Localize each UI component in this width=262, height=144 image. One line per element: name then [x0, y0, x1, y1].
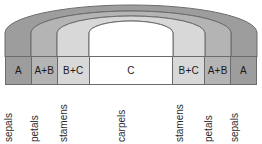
organ-label-slot: petals	[31, 86, 57, 144]
organ-label-slot: stamens	[57, 86, 89, 144]
organ-label-slot: sepals	[231, 86, 257, 144]
organ-label-slot: sepals	[5, 86, 31, 144]
flower-abc-model-diagram: A A+B B+C C B+C A+B A sepals petals stam…	[0, 0, 262, 144]
organ-label: sepals	[229, 113, 240, 142]
gene-cell: C	[90, 57, 174, 84]
gene-cell: B+C	[173, 57, 205, 84]
organ-label-slot: petals	[205, 86, 231, 144]
organ-label-slot: carpels	[89, 86, 173, 144]
organ-label: petals	[29, 115, 40, 142]
gene-cell: A+B	[205, 57, 231, 84]
organ-label: stamens	[174, 104, 185, 142]
organ-label: stamens	[58, 104, 69, 142]
organ-label-slot: stamens	[173, 86, 205, 144]
organ-label: petals	[203, 115, 214, 142]
carpels-arch-band	[89, 21, 173, 57]
organ-label: sepals	[3, 113, 14, 142]
gene-domain-row: A A+B B+C C B+C A+B A	[5, 56, 257, 85]
gene-cell: A+B	[32, 57, 58, 84]
organ-label-row: sepals petals stamens carpels stamens pe…	[5, 86, 257, 144]
gene-cell: B+C	[58, 57, 90, 84]
gene-cell: A	[231, 57, 257, 84]
organ-label: carpels	[116, 110, 127, 142]
gene-cell: A	[6, 57, 32, 84]
